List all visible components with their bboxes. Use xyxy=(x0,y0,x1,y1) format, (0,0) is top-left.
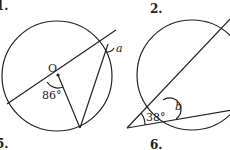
figure-2-number: 2. xyxy=(150,2,163,16)
figure-2-given-angle: 38° xyxy=(146,111,166,124)
figure-5-number: 5. xyxy=(0,137,9,150)
geometry-figures: 1. O 86° a 5. 2. 38° b 6. xyxy=(0,0,230,150)
figure-1-angle-arc xyxy=(47,82,63,88)
figure-2-angle-arc xyxy=(141,113,145,125)
figure-1-unknown-angle: a xyxy=(116,42,123,55)
figure-1-chord xyxy=(80,44,108,128)
figure-1-diameter xyxy=(7,30,116,104)
figure-1-angle-a-arc xyxy=(106,48,114,52)
figure-6-number: 6. xyxy=(150,138,163,150)
figure-2-unknown-angle: b xyxy=(175,100,182,113)
figure-2: 2. 38° b 6. xyxy=(127,2,230,150)
figure-1-given-angle: 86° xyxy=(42,89,62,102)
figure-1: 1. O 86° a 5. xyxy=(0,0,123,150)
figure-1-number: 1. xyxy=(0,0,9,13)
figure-1-center-label: O xyxy=(48,62,57,75)
